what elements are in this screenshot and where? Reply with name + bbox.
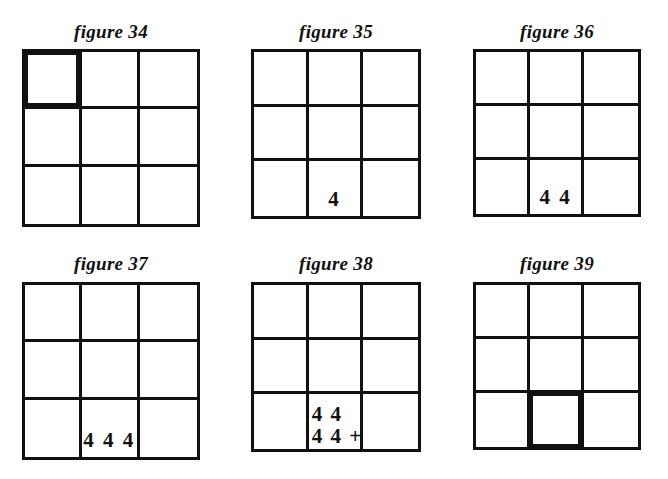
grid-cell[interactable] <box>584 106 638 160</box>
figure-caption: figure 34 <box>22 22 200 41</box>
figure-block: figure 384 44 4 + <box>251 254 421 452</box>
grid-cell[interactable] <box>25 109 82 166</box>
cell-text: 4 44 4 + <box>312 404 361 447</box>
grid-cell[interactable] <box>584 52 638 106</box>
grid-cell[interactable]: 4 44 4 + <box>309 394 364 449</box>
grid-cell[interactable]: 4 <box>309 161 364 216</box>
grid-cell[interactable] <box>254 285 309 340</box>
grid-cell[interactable] <box>530 285 584 339</box>
grid-cell[interactable] <box>254 340 309 395</box>
grid-cell[interactable] <box>254 107 309 162</box>
grid-cell[interactable] <box>476 285 530 339</box>
figure-block: figure 364 4 <box>473 22 641 217</box>
cell-text: 4 4 4 <box>83 430 136 451</box>
grid-cell[interactable] <box>140 109 197 166</box>
three-by-three-grid: 4 44 4 + <box>251 282 421 452</box>
three-by-three-grid: 4 4 4 <box>22 282 200 460</box>
cell-text-line: 4 4 <box>312 404 361 425</box>
figure-caption: figure 35 <box>251 22 421 41</box>
grid-cell[interactable] <box>140 342 197 399</box>
figure-caption: figure 38 <box>251 254 421 273</box>
figure-block: figure 39 <box>473 254 641 450</box>
grid-cell[interactable] <box>584 393 638 447</box>
grid-cell[interactable] <box>25 285 82 342</box>
grid-cell[interactable] <box>25 342 82 399</box>
grid-cell[interactable] <box>363 340 418 395</box>
grid-cell[interactable] <box>476 393 530 447</box>
grid-cell[interactable] <box>25 400 82 457</box>
grid-cell[interactable] <box>25 167 82 224</box>
grid-cell[interactable] <box>363 285 418 340</box>
cell-text: 4 4 <box>530 187 581 208</box>
grid-cell-highlighted[interactable] <box>530 393 584 447</box>
three-by-three-grid <box>473 282 641 450</box>
grid-cell[interactable] <box>82 342 139 399</box>
figure-block: figure 354 <box>251 22 421 219</box>
grid-cell[interactable] <box>140 400 197 457</box>
figure-caption: figure 39 <box>473 254 641 273</box>
grid-cell[interactable] <box>476 106 530 160</box>
figure-block: figure 34 <box>22 22 200 227</box>
grid-cell[interactable] <box>584 339 638 393</box>
grid-cell[interactable] <box>363 107 418 162</box>
grid-cell[interactable] <box>82 167 139 224</box>
grid-cell[interactable] <box>584 285 638 339</box>
grid-cell[interactable] <box>530 52 584 106</box>
figure-block: figure 374 4 4 <box>22 254 200 460</box>
grid-cell[interactable] <box>254 394 309 449</box>
grid-cell[interactable] <box>476 339 530 393</box>
cell-text: 4 <box>309 189 361 210</box>
grid-cell[interactable] <box>140 52 197 109</box>
grid-cell[interactable] <box>309 107 364 162</box>
grid-cell[interactable] <box>140 167 197 224</box>
grid-cell[interactable] <box>363 52 418 107</box>
three-by-three-grid: 4 4 <box>473 49 641 217</box>
grid-cell[interactable] <box>309 52 364 107</box>
grid-cell[interactable] <box>254 161 309 216</box>
grid-cell[interactable] <box>476 52 530 106</box>
grid-cell[interactable] <box>82 109 139 166</box>
grid-cell[interactable] <box>82 52 139 109</box>
cell-text-line: 4 4 + <box>312 426 361 447</box>
grid-cell[interactable]: 4 4 <box>530 160 584 214</box>
grid-cell[interactable] <box>309 340 364 395</box>
grid-cell[interactable] <box>530 339 584 393</box>
grid-cell[interactable] <box>363 394 418 449</box>
grid-cell[interactable] <box>309 285 364 340</box>
grid-cell-highlighted[interactable] <box>25 52 82 109</box>
three-by-three-grid <box>22 49 200 227</box>
grid-cell[interactable] <box>140 285 197 342</box>
grid-cell[interactable] <box>254 52 309 107</box>
figure-caption: figure 37 <box>22 254 200 273</box>
grid-cell[interactable]: 4 4 4 <box>82 400 139 457</box>
grid-cell[interactable] <box>82 285 139 342</box>
figure-caption: figure 36 <box>473 22 641 41</box>
grid-cell[interactable] <box>363 161 418 216</box>
grid-cell[interactable] <box>476 160 530 214</box>
figures-sheet: figure 34figure 354figure 364 4figure 37… <box>0 0 668 479</box>
grid-cell[interactable] <box>584 160 638 214</box>
three-by-three-grid: 4 <box>251 49 421 219</box>
grid-cell[interactable] <box>530 106 584 160</box>
